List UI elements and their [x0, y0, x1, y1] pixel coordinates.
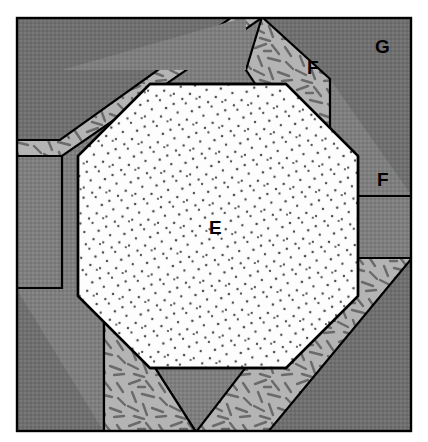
region-label-F-upper: F: [307, 58, 319, 77]
region-label-E: E: [209, 218, 222, 237]
region-label-F-right: F: [377, 170, 389, 189]
region-label-G: G: [375, 37, 390, 56]
figure-root: E F F G: [0, 0, 428, 442]
left-step-block: [16, 156, 62, 288]
